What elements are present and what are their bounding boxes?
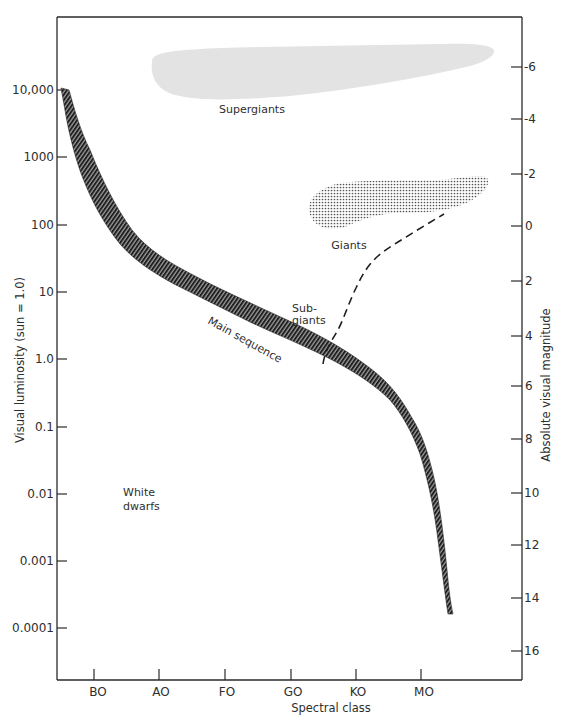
right-tick-label: -6 — [524, 60, 536, 74]
spectral-tick-label: GO — [284, 685, 303, 699]
right-tick-label: 2 — [525, 274, 533, 288]
right-tick-label: 8 — [525, 432, 533, 446]
left-tick-label: 0.01 — [27, 487, 54, 501]
right-tick-label: 16 — [524, 644, 539, 658]
right-axis-labels: -6 -4 -2 0 2 4 6 8 10 12 14 16 — [524, 60, 539, 658]
spectral-tick-label: KO — [350, 685, 367, 699]
left-tick-label: 0.1 — [35, 420, 54, 434]
supergiants-label: Supergiants — [219, 103, 285, 116]
left-tick-label: 10 — [39, 285, 54, 299]
right-axis-ticks — [511, 67, 522, 651]
white-dwarfs-label-line1: White — [123, 486, 155, 499]
left-tick-label: 100 — [31, 218, 54, 232]
giants-label: Giants — [331, 239, 367, 252]
left-axis-ticks — [57, 90, 67, 628]
left-tick-label: 1.0 — [35, 352, 54, 366]
subgiants-label-line2: giants — [292, 314, 326, 327]
left-tick-label: 1000 — [23, 150, 54, 164]
spectral-tick-label: FO — [219, 685, 235, 699]
right-tick-label: 12 — [524, 538, 539, 552]
spectral-tick-label: AO — [152, 685, 169, 699]
left-tick-label: 0.0001 — [12, 621, 54, 635]
right-axis-title: Absolute visual magnitude — [539, 308, 553, 461]
right-tick-label: 0 — [525, 219, 533, 233]
right-tick-label: 6 — [525, 379, 533, 393]
right-tick-label: -2 — [524, 167, 536, 181]
plot-frame — [57, 17, 522, 680]
supergiants-region — [152, 44, 495, 100]
spectral-tick-label: BO — [89, 685, 106, 699]
right-tick-label: 4 — [525, 329, 533, 343]
bottom-axis-labels: BO AO FO GO KO MO — [89, 685, 434, 699]
spectral-tick-label: MO — [414, 685, 434, 699]
white-dwarfs-label-line2: dwarfs — [123, 500, 160, 513]
left-tick-label: 0.001 — [20, 554, 54, 568]
bottom-axis-title: Spectral class — [291, 701, 371, 715]
right-tick-label: -4 — [524, 112, 536, 126]
giants-region — [309, 176, 488, 229]
subgiant-branch-line — [323, 214, 444, 364]
right-tick-label: 10 — [524, 486, 539, 500]
hr-diagram: 10,000 1000 100 10 1.0 0.1 0.01 0.001 0.… — [0, 0, 565, 719]
left-tick-label: 10,000 — [12, 83, 54, 97]
right-tick-label: 14 — [524, 591, 539, 605]
left-axis-title: Visual luminosity (sun = 1.0) — [13, 277, 27, 443]
bottom-axis-ticks — [94, 669, 421, 680]
